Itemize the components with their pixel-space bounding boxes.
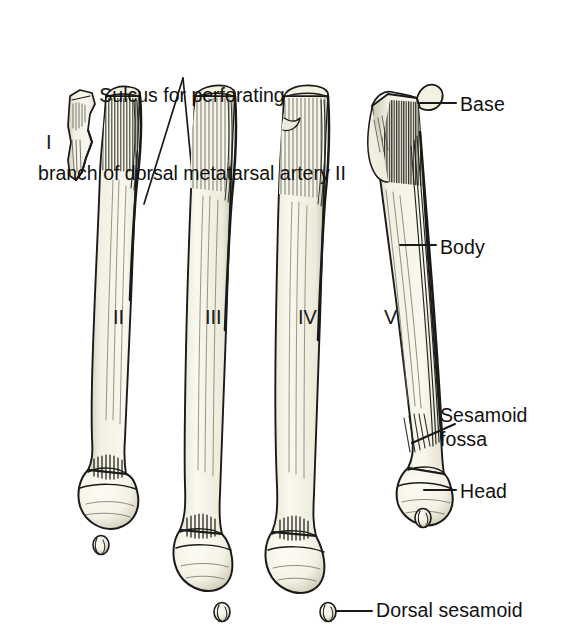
anatomical-plate: Sulcus for perforating branch of dorsal … — [0, 0, 576, 636]
label-sesamoid-fossa-line-2: fossa — [440, 428, 487, 451]
bone-numeral-iii: III — [205, 307, 222, 327]
sesamoid-metatarsal-4 — [320, 603, 336, 622]
label-dorsal-sesamoid: Dorsal sesamoid — [376, 599, 523, 622]
label-sesamoid-fossa-line-1: Sesamoid — [440, 404, 528, 427]
sesamoid-metatarsal-5 — [415, 509, 431, 528]
sesamoid-metatarsal-3 — [214, 603, 230, 622]
caption-line-2: branch of dorsal metatarsal artery II — [14, 160, 370, 186]
figure-caption: Sulcus for perforating branch of dorsal … — [14, 30, 370, 238]
sesamoid-metatarsal-2 — [93, 536, 109, 555]
label-head: Head — [460, 480, 507, 503]
bone-numeral-i: I — [46, 132, 52, 152]
caption-line-1: Sulcus for perforating — [14, 82, 370, 108]
label-base: Base — [460, 93, 505, 116]
bone-numeral-iv: IV — [298, 307, 317, 327]
bone-numeral-v: V — [384, 307, 397, 327]
bone-metatarsal-5 — [368, 85, 453, 526]
label-body: Body — [440, 236, 485, 259]
bone-numeral-ii: II — [113, 307, 124, 327]
